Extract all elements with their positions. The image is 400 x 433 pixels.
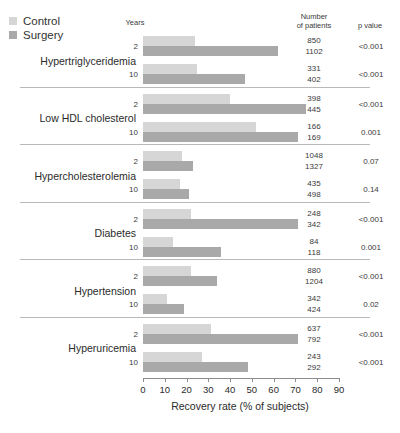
group-separator bbox=[20, 144, 370, 145]
patient-count-surgery: 498 bbox=[285, 189, 343, 200]
patient-count-surgery: 342 bbox=[285, 219, 343, 230]
chart-row: 2398445<0.001 bbox=[0, 92, 400, 118]
years-label: 10 bbox=[112, 292, 138, 318]
years-label: 2 bbox=[112, 207, 138, 233]
x-axis-tick bbox=[339, 378, 340, 382]
patient-count-control: 166 bbox=[285, 121, 343, 132]
patient-count-surgery: 292 bbox=[285, 362, 343, 373]
x-axis-tick bbox=[295, 378, 296, 382]
bar-control bbox=[143, 179, 180, 189]
bar-control bbox=[143, 266, 191, 276]
patient-counts: 166169 bbox=[285, 121, 343, 143]
condition-group: Hypercholesterolemia2104813270.071043549… bbox=[0, 148, 400, 206]
bar-control bbox=[143, 64, 197, 74]
x-axis-tick-label: 60 bbox=[262, 384, 286, 395]
years-label: 2 bbox=[112, 322, 138, 348]
patient-count-control: 331 bbox=[285, 63, 343, 74]
column-header-p-value: p value bbox=[348, 21, 392, 30]
bar-control bbox=[143, 209, 191, 219]
years-label: 10 bbox=[112, 177, 138, 203]
bar-surgery bbox=[143, 362, 248, 372]
chart-row: 28801204<0.001 bbox=[0, 264, 400, 290]
bar-control bbox=[143, 122, 256, 132]
patient-count-surgery: 1327 bbox=[285, 161, 343, 172]
x-axis-title: Recovery rate (% of subjects) bbox=[120, 400, 360, 412]
patient-counts: 342424 bbox=[285, 293, 343, 315]
bar-control bbox=[143, 237, 173, 247]
patient-counts: 398445 bbox=[285, 93, 343, 115]
chart-row: 101661690.001 bbox=[0, 120, 400, 146]
condition-group: Diabetes2248342<0.00110841180.001 bbox=[0, 206, 400, 264]
bar-surgery bbox=[143, 247, 221, 257]
p-value: 0.07 bbox=[348, 156, 394, 167]
patient-count-surgery: 118 bbox=[285, 247, 343, 258]
legend-swatch-control bbox=[9, 17, 17, 25]
patient-count-surgery: 169 bbox=[285, 132, 343, 143]
x-axis-tick bbox=[165, 378, 166, 382]
p-value: <0.001 bbox=[348, 357, 394, 368]
patient-counts: 84118 bbox=[285, 236, 343, 258]
bar-surgery bbox=[143, 104, 306, 114]
condition-group: Hyperuricemia2637792<0.00110243292<0.001 bbox=[0, 321, 400, 379]
x-axis-tick bbox=[143, 378, 144, 382]
bar-surgery bbox=[143, 46, 278, 56]
patient-count-surgery: 792 bbox=[285, 334, 343, 345]
patient-count-surgery: 445 bbox=[285, 104, 343, 115]
bar-surgery bbox=[143, 219, 298, 229]
legend-label-control: Control bbox=[23, 15, 60, 27]
patient-count-control: 435 bbox=[285, 178, 343, 189]
bar-control bbox=[143, 151, 182, 161]
patient-count-control: 243 bbox=[285, 351, 343, 362]
bar-surgery bbox=[143, 132, 298, 142]
bar-surgery bbox=[143, 74, 245, 84]
x-axis-tick bbox=[252, 378, 253, 382]
bar-control bbox=[143, 36, 195, 46]
x-axis-tick-label: 30 bbox=[196, 384, 220, 395]
patient-count-control: 850 bbox=[285, 35, 343, 46]
patient-counts: 10481327 bbox=[285, 150, 343, 172]
patient-counts: 243292 bbox=[285, 351, 343, 373]
patient-counts: 8801204 bbox=[285, 265, 343, 287]
patient-count-surgery: 424 bbox=[285, 304, 343, 315]
chart-row: 103424240.02 bbox=[0, 292, 400, 318]
patient-count-control: 1048 bbox=[285, 150, 343, 161]
group-separator bbox=[20, 259, 370, 260]
patient-counts: 331402 bbox=[285, 63, 343, 85]
p-value: <0.001 bbox=[348, 214, 394, 225]
group-separator bbox=[20, 87, 370, 88]
p-value: 0.001 bbox=[348, 242, 394, 253]
group-separator bbox=[20, 317, 370, 318]
chart-row: 28501102<0.001 bbox=[0, 34, 400, 60]
patient-count-control: 342 bbox=[285, 293, 343, 304]
chart-row: 104354980.14 bbox=[0, 177, 400, 203]
x-axis-tick bbox=[230, 378, 231, 382]
bar-surgery bbox=[143, 304, 184, 314]
years-label: 2 bbox=[112, 264, 138, 290]
chart-row: 2248342<0.001 bbox=[0, 207, 400, 233]
years-label: 2 bbox=[112, 92, 138, 118]
patient-count-control: 398 bbox=[285, 93, 343, 104]
x-axis-tick-label: 10 bbox=[153, 384, 177, 395]
chart-row: 2104813270.07 bbox=[0, 149, 400, 175]
chart-row: 10243292<0.001 bbox=[0, 350, 400, 376]
years-label: 10 bbox=[112, 62, 138, 88]
bar-surgery bbox=[143, 276, 217, 286]
patient-counts: 248342 bbox=[285, 208, 343, 230]
p-value: <0.001 bbox=[348, 271, 394, 282]
p-value: 0.14 bbox=[348, 184, 394, 195]
bar-control bbox=[143, 94, 230, 104]
condition-group: Hypertension28801204<0.001103424240.02 bbox=[0, 263, 400, 321]
patient-counts: 435498 bbox=[285, 178, 343, 200]
patient-counts: 8501102 bbox=[285, 35, 343, 57]
p-value: <0.001 bbox=[348, 41, 394, 52]
condition-group: Hypertriglyceridemia28501102<0.001103314… bbox=[0, 33, 400, 91]
patient-count-surgery: 1204 bbox=[285, 276, 343, 287]
x-axis-tick bbox=[274, 378, 275, 382]
x-axis-tick bbox=[187, 378, 188, 382]
bar-control bbox=[143, 294, 167, 304]
years-label: 10 bbox=[112, 235, 138, 261]
p-value: <0.001 bbox=[348, 329, 394, 340]
patient-counts: 637792 bbox=[285, 323, 343, 345]
years-label: 10 bbox=[112, 120, 138, 146]
bar-surgery bbox=[143, 189, 189, 199]
